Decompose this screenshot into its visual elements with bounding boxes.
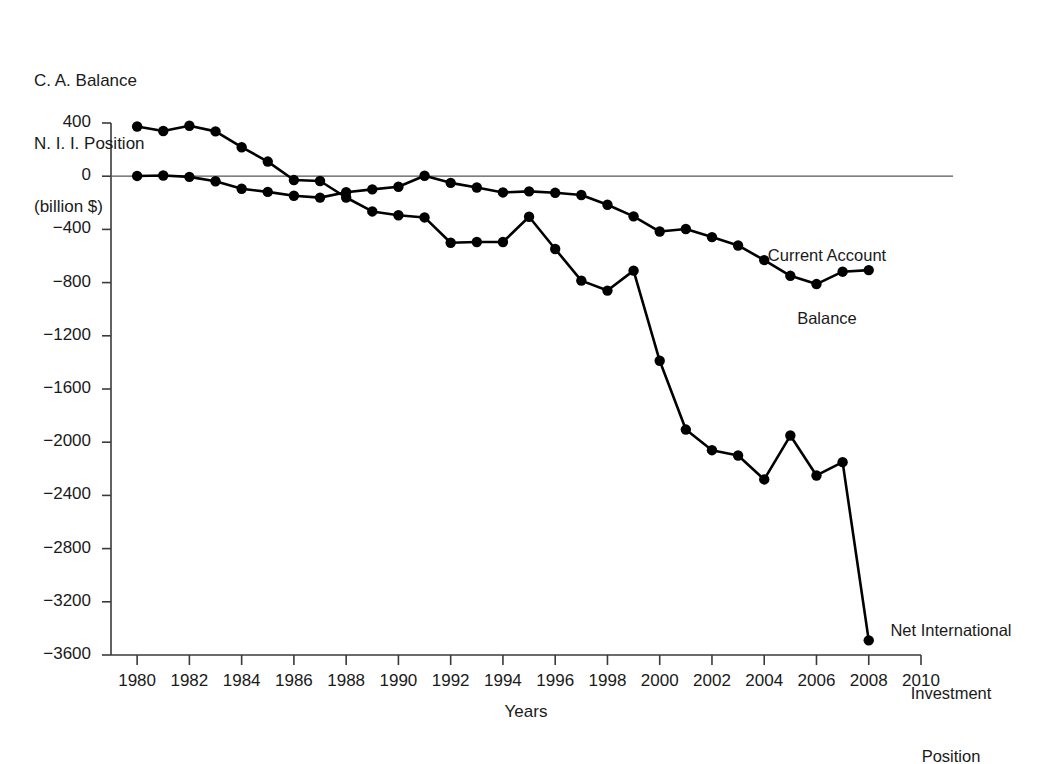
data-point-marker bbox=[681, 224, 691, 234]
y-tick-label: 0 bbox=[21, 165, 91, 185]
data-point-marker bbox=[210, 126, 220, 136]
data-point-marker bbox=[236, 184, 246, 194]
data-point-marker bbox=[837, 457, 847, 467]
data-point-marker bbox=[733, 450, 743, 460]
x-tick-label: 1994 bbox=[473, 671, 533, 691]
data-point-marker bbox=[576, 190, 586, 200]
data-point-marker bbox=[498, 237, 508, 247]
data-point-marker bbox=[707, 445, 717, 455]
y-axis-caption-line-2: N. I. I. Position bbox=[34, 133, 145, 154]
data-point-marker bbox=[158, 170, 168, 180]
data-point-marker bbox=[628, 211, 638, 221]
y-tick-label: −2000 bbox=[21, 431, 91, 451]
data-point-marker bbox=[524, 186, 534, 196]
data-point-marker bbox=[445, 238, 455, 248]
data-point-marker bbox=[681, 424, 691, 434]
data-point-marker bbox=[236, 142, 246, 152]
x-tick-label: 2010 bbox=[891, 671, 951, 691]
data-point-marker bbox=[628, 265, 638, 275]
data-point-marker bbox=[315, 176, 325, 186]
x-tick-label: 1990 bbox=[368, 671, 428, 691]
data-point-marker bbox=[602, 200, 612, 210]
chart-figure: C. A. Balance N. I. I. Position (billion… bbox=[0, 0, 1052, 764]
data-point-marker bbox=[184, 172, 194, 182]
data-point-marker bbox=[367, 184, 377, 194]
x-tick-label: 1988 bbox=[316, 671, 376, 691]
y-tick-label: −1600 bbox=[21, 378, 91, 398]
y-tick-label: −3200 bbox=[21, 591, 91, 611]
series-label-current-account-line-2: Balance bbox=[742, 308, 912, 329]
x-tick-label: 2004 bbox=[734, 671, 794, 691]
data-point-marker bbox=[550, 188, 560, 198]
data-point-marker bbox=[393, 182, 403, 192]
data-point-marker bbox=[158, 126, 168, 136]
data-point-marker bbox=[759, 474, 769, 484]
x-tick-label: 2006 bbox=[786, 671, 846, 691]
x-tick-label: 2002 bbox=[682, 671, 742, 691]
y-tick-label: −1200 bbox=[21, 325, 91, 345]
series-label-current-account-line-1: Current Account bbox=[742, 245, 912, 266]
data-point-marker bbox=[498, 187, 508, 197]
x-tick-label: 1998 bbox=[577, 671, 637, 691]
x-tick-label: 1984 bbox=[212, 671, 272, 691]
data-point-marker bbox=[419, 171, 429, 181]
data-point-marker bbox=[289, 175, 299, 185]
data-point-marker bbox=[367, 206, 377, 216]
data-point-marker bbox=[550, 244, 560, 254]
x-tick-label: 1980 bbox=[107, 671, 167, 691]
y-axis-caption-line-1: C. A. Balance bbox=[34, 70, 145, 91]
x-tick-label: 2008 bbox=[839, 671, 899, 691]
data-point-marker bbox=[602, 285, 612, 295]
data-point-marker bbox=[472, 237, 482, 247]
data-point-marker bbox=[341, 192, 351, 202]
y-axis-caption-line-3: (billion $) bbox=[34, 196, 145, 217]
y-tick-label: −800 bbox=[21, 272, 91, 292]
y-tick-label: −2800 bbox=[21, 538, 91, 558]
x-tick-label: 1992 bbox=[421, 671, 481, 691]
data-point-marker bbox=[210, 176, 220, 186]
data-point-marker bbox=[289, 191, 299, 201]
data-point-marker bbox=[263, 156, 273, 166]
data-point-marker bbox=[445, 178, 455, 188]
series-group bbox=[132, 121, 874, 646]
series-label-niip-line-3: Position bbox=[862, 746, 1040, 764]
y-tick-label: −2400 bbox=[21, 484, 91, 504]
data-point-marker bbox=[655, 356, 665, 366]
data-point-marker bbox=[707, 232, 717, 242]
x-tick-label: 1982 bbox=[159, 671, 219, 691]
x-tick-label: 1996 bbox=[525, 671, 585, 691]
data-point-marker bbox=[811, 470, 821, 480]
y-tick-label: −3600 bbox=[21, 644, 91, 664]
data-point-marker bbox=[393, 210, 403, 220]
data-point-marker bbox=[785, 430, 795, 440]
data-point-marker bbox=[263, 187, 273, 197]
data-point-marker bbox=[655, 226, 665, 236]
data-point-marker bbox=[576, 275, 586, 285]
y-tick-label: −400 bbox=[21, 218, 91, 238]
data-point-marker bbox=[419, 212, 429, 222]
x-tick-label: 1986 bbox=[264, 671, 324, 691]
data-point-marker bbox=[315, 192, 325, 202]
data-point-marker bbox=[472, 182, 482, 192]
x-tick-label: 2000 bbox=[630, 671, 690, 691]
series-label-current-account: Current Account Balance bbox=[742, 203, 912, 371]
data-point-marker bbox=[524, 212, 534, 222]
data-point-marker bbox=[184, 121, 194, 131]
series-label-niip-line-1: Net International bbox=[862, 620, 1040, 641]
y-tick-label: 400 bbox=[21, 112, 91, 132]
